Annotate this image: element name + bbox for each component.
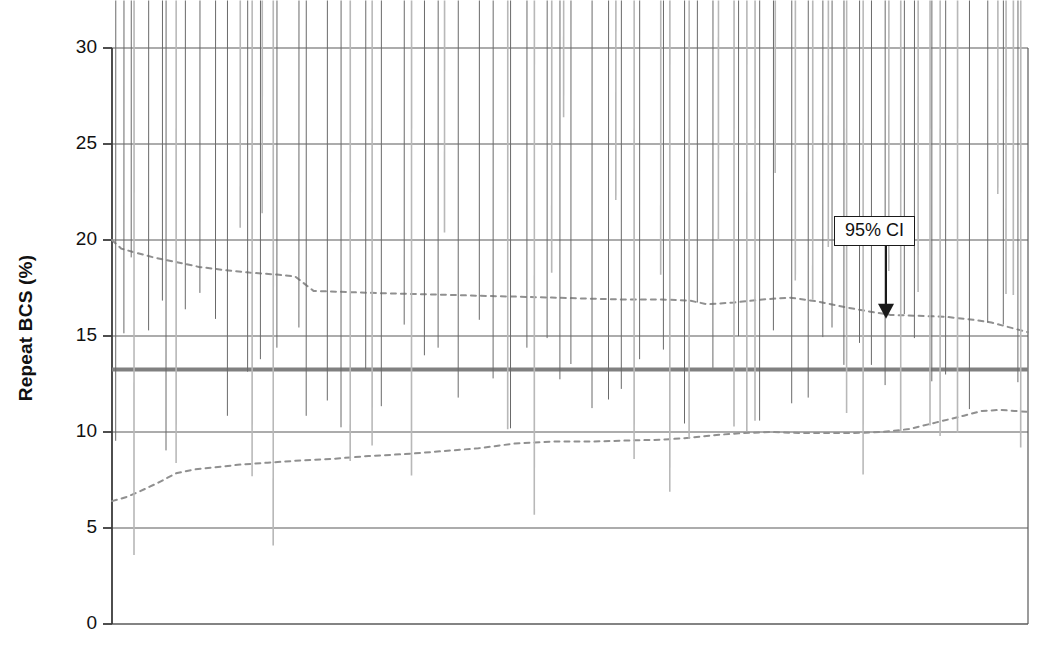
- scatter-plot-svg: [0, 0, 1058, 656]
- ci-annotation-box: 95% CI: [834, 216, 915, 246]
- chart-container: Repeat BCS (%) 051015202530 95% CI: [0, 0, 1058, 656]
- ci-arrow-head: [878, 304, 894, 319]
- ci-annotation-label: 95% CI: [845, 220, 904, 240]
- lower-95-ci: [112, 410, 1028, 501]
- upper-95-ci: [112, 240, 1028, 332]
